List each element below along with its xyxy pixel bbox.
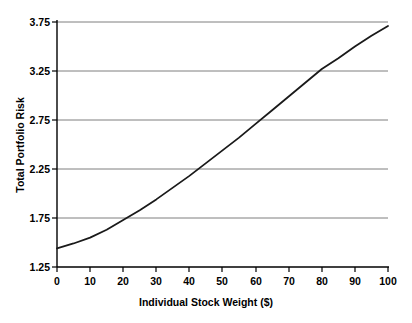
x-tick-label-90: 90	[343, 275, 367, 287]
y-axis-label-wrapper: Total Portfolio Risk	[10, 0, 30, 290]
x-axis-ticks	[57, 267, 388, 272]
x-tick-label-60: 60	[244, 275, 268, 287]
x-axis-label: Individual Stock Weight ($)	[0, 296, 412, 308]
gridlines	[57, 22, 388, 218]
x-tick-label-0: 0	[45, 275, 69, 287]
risk-curve-line	[57, 26, 388, 248]
x-tick-label-80: 80	[310, 275, 334, 287]
x-tick-label-40: 40	[177, 275, 201, 287]
y-axis-label: Total Portfolio Risk	[14, 97, 26, 192]
x-tick-label-50: 50	[210, 275, 234, 287]
x-tick-label-30: 30	[144, 275, 168, 287]
y-axis-ticks	[52, 22, 57, 267]
x-tick-label-10: 10	[78, 275, 102, 287]
chart-container: 3.75 3.25 2.75 2.25 1.75 1.25 0 10 20 30…	[0, 0, 412, 323]
x-tick-label-100: 100	[375, 275, 401, 287]
x-tick-label-70: 70	[277, 275, 301, 287]
x-tick-label-20: 20	[111, 275, 135, 287]
